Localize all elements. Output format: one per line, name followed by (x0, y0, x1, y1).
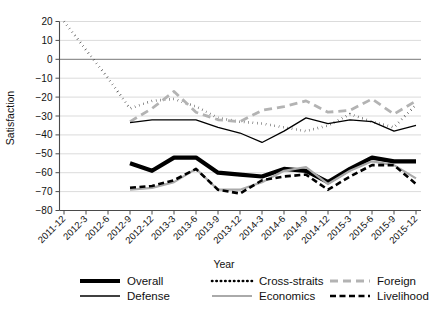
x-tick-label: 2011-12 (35, 213, 67, 245)
x-axis-ticks: 2011-122012-32012-62012-92012-122013-320… (35, 211, 419, 246)
y-tick-label: −60 (36, 167, 53, 178)
y-tick-label: 10 (41, 35, 53, 46)
series-line-cross-straits (64, 22, 416, 132)
legend-item-livelihood[interactable]: Livelihood (330, 290, 429, 302)
satisfaction-line-chart: 20100−10−20−30−40−50−60−70−80 2011-12201… (0, 0, 448, 310)
chart-canvas: 20100−10−20−30−40−50−60−70−80 2011-12201… (0, 0, 448, 310)
gridlines (60, 22, 422, 211)
y-tick-label: −70 (36, 186, 53, 197)
legend-label: Cross-straits (259, 275, 324, 287)
legend-label: Overall (127, 275, 163, 287)
y-tick-label: 0 (47, 54, 53, 65)
legend-item-economics[interactable]: Economics (212, 290, 315, 302)
legend-label: Foreign (377, 275, 416, 287)
y-tick-label: −40 (36, 129, 53, 140)
y-axis-ticks: 20100−10−20−30−40−50−60−70−80 (36, 16, 60, 216)
legend-label: Defense (127, 290, 170, 302)
legend-label: Economics (259, 290, 315, 302)
y-tick-label: −30 (36, 111, 53, 122)
series-line-foreign (130, 91, 416, 121)
y-tick-label: 20 (41, 16, 53, 27)
y-tick-label: −20 (36, 92, 53, 103)
series-line-defense (130, 118, 416, 143)
legend-item-overall[interactable]: Overall (80, 275, 163, 287)
legend-item-cross-straits[interactable]: Cross-straits (212, 275, 324, 287)
x-axis-title: Year (213, 258, 235, 270)
series-line-livelihood (130, 165, 416, 193)
y-axis-title: Satisfaction (4, 91, 16, 145)
y-tick-label: −80 (36, 205, 53, 216)
legend-item-defense[interactable]: Defense (80, 290, 170, 302)
legend-item-foreign[interactable]: Foreign (330, 275, 416, 287)
y-tick-label: −50 (36, 148, 53, 159)
legend-label: Livelihood (377, 290, 429, 302)
data-series (64, 22, 416, 194)
y-tick-label: −10 (36, 73, 53, 84)
chart-legend: OverallCross-straitsForeignDefenseEconom… (80, 275, 429, 302)
